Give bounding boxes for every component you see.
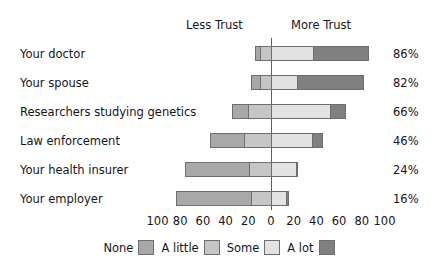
row-value-label: 24% [393, 164, 419, 176]
category-label: Your spouse [20, 77, 89, 89]
bar-row [185, 162, 298, 177]
plot-area [156, 38, 385, 210]
row-value-label: 66% [393, 106, 419, 118]
bar-segment-some [271, 162, 296, 177]
bar-segment-a-little [244, 133, 271, 148]
legend-swatch [264, 240, 280, 255]
legend-label: A lot [287, 241, 313, 255]
bar-segment-some [271, 104, 330, 119]
bar-segment-a-lot [312, 133, 323, 148]
row-value-label: 86% [393, 48, 419, 60]
bar-segment-a-little [251, 191, 271, 206]
bar-segment-none [232, 104, 248, 119]
bar-segment-none [251, 75, 260, 90]
bar-segment-a-little [260, 75, 271, 90]
legend-swatch [204, 240, 220, 255]
bar-row [210, 133, 323, 148]
bar-segment-a-little [248, 104, 271, 119]
bar-segment-a-lot [296, 162, 298, 177]
x-tick-label: 40 [309, 214, 324, 228]
legend-swatch [319, 240, 335, 255]
bar-segment-a-lot [330, 104, 346, 119]
category-label: Your health insurer [20, 164, 128, 176]
zero-axis-line [271, 38, 272, 210]
bar-row [176, 191, 289, 206]
diverging-stacked-bar-chart: Less Trust More Trust Your doctorYour sp… [0, 0, 438, 276]
bar-segment-a-lot [297, 75, 364, 90]
bar-segment-none [185, 162, 250, 177]
x-tick-label: 100 [374, 214, 396, 228]
bar-segment-a-lot [313, 46, 369, 61]
bar-segment-some [271, 75, 297, 90]
bar-row [232, 104, 345, 119]
bar-segment-a-little [249, 162, 271, 177]
bar-segment-none [210, 133, 244, 148]
legend-label: A little [161, 241, 198, 255]
bar-segment-none [176, 191, 251, 206]
more-trust-header: More Trust [291, 18, 351, 32]
legend-swatch [138, 240, 154, 255]
legend-item: Some [227, 240, 281, 255]
x-tick-label: 20 [241, 214, 256, 228]
bar-segment-some [271, 191, 286, 206]
x-tick-label: 60 [196, 214, 211, 228]
legend-item: None [103, 240, 154, 255]
chart-legend: NoneA littleSomeA lot [0, 240, 438, 255]
category-label: Your employer [20, 193, 103, 205]
x-tick-label: 60 [332, 214, 347, 228]
bar-segment-some [271, 46, 313, 61]
x-tick-label: 80 [354, 214, 369, 228]
row-value-label: 46% [393, 135, 419, 147]
row-value-label: 82% [393, 77, 419, 89]
bar-row [255, 46, 368, 61]
bar-row [251, 75, 364, 90]
legend-item: A lot [287, 240, 334, 255]
row-value-label: 16% [393, 193, 419, 205]
x-tick-label: 80 [173, 214, 188, 228]
category-label: Your doctor [20, 48, 85, 60]
x-tick-label: 20 [286, 214, 301, 228]
x-tick-label: 40 [218, 214, 233, 228]
bar-segment-some [271, 133, 312, 148]
category-label: Law enforcement [20, 135, 120, 147]
bar-segment-a-lot [286, 191, 289, 206]
legend-label: None [103, 241, 133, 255]
legend-label: Some [227, 241, 260, 255]
bar-segment-a-little [260, 46, 271, 61]
x-tick-label: 100 [147, 214, 169, 228]
x-tick-label: 0 [267, 214, 274, 228]
legend-item: A little [161, 240, 219, 255]
x-axis-tick-labels: 10080604020020406080100 [0, 214, 438, 228]
less-trust-header: Less Trust [186, 18, 243, 32]
